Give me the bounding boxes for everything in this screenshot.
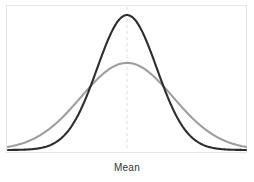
curves-layer	[0, 0, 254, 182]
normal-distribution-figure: Mean	[0, 0, 254, 182]
mean-axis-label: Mean	[0, 161, 254, 174]
